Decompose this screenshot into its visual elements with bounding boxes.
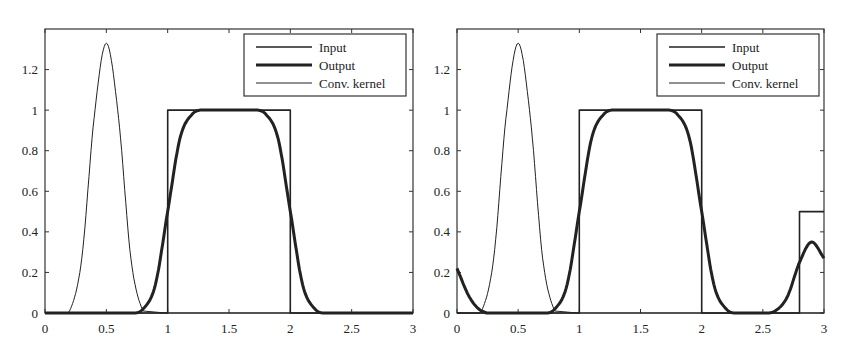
x-tick-label: 0 <box>454 321 461 336</box>
right-chart: 00.511.522.5300.20.40.60.811.2InputOutpu… <box>0 0 844 354</box>
legend-label: Output <box>732 58 769 73</box>
series-output <box>457 110 824 313</box>
y-tick-label: 0 <box>444 306 451 321</box>
y-tick-label: 0.4 <box>434 224 451 239</box>
y-tick-label: 1 <box>444 103 451 118</box>
y-tick-label: 0.8 <box>434 143 450 158</box>
series-input <box>457 110 824 313</box>
y-tick-label: 0.6 <box>434 184 451 199</box>
x-tick-label: 3 <box>821 321 828 336</box>
chart-1-content: 00.511.522.5300.20.40.60.811.2InputOutpu… <box>434 29 828 336</box>
x-tick-label: 2 <box>698 321 705 336</box>
x-tick-label: 1.5 <box>632 321 648 336</box>
x-tick-label: 2.5 <box>755 321 771 336</box>
x-tick-label: 1 <box>576 321 583 336</box>
legend-label: Input <box>732 40 760 55</box>
legend: InputOutputConv. kernel <box>657 34 819 96</box>
x-tick-label: 0.5 <box>510 321 526 336</box>
legend-label: Conv. kernel <box>732 76 799 91</box>
y-tick-label: 1.2 <box>434 62 450 77</box>
right-chart-plot: 00.511.522.5300.20.40.60.811.2InputOutpu… <box>0 0 844 354</box>
y-tick-label: 0.2 <box>434 265 450 280</box>
